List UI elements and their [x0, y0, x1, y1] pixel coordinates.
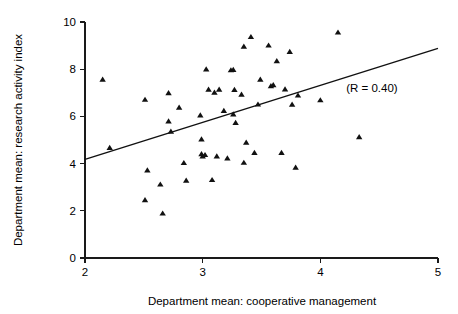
x-tick-label: 4 — [317, 266, 324, 278]
data-point-marker — [274, 58, 280, 63]
data-point-marker — [287, 49, 293, 54]
y-tick-label: 4 — [70, 158, 77, 170]
data-point-marker — [251, 150, 257, 155]
regression-line — [85, 48, 438, 159]
data-point-marker — [335, 29, 341, 34]
data-point-marker — [183, 178, 189, 183]
data-point-marker — [317, 97, 323, 102]
data-point-marker — [241, 160, 247, 165]
data-point-marker — [282, 86, 288, 91]
data-point-marker — [142, 97, 148, 102]
data-point-marker — [224, 155, 230, 160]
data-point-marker — [221, 108, 227, 113]
data-point-marker — [248, 34, 254, 39]
y-axis-title: Department mean: research activity index — [12, 34, 24, 246]
data-point-marker — [241, 44, 247, 49]
data-point-marker — [142, 197, 148, 202]
data-point-marker — [181, 160, 187, 165]
data-point-marker — [265, 42, 271, 47]
data-point-marker — [157, 181, 163, 186]
annotation-label: (R = 0.40) — [346, 82, 398, 94]
data-point-marker — [216, 87, 222, 92]
data-point-marker — [159, 210, 165, 215]
data-point-marker — [214, 153, 220, 158]
y-tick-label: 10 — [63, 16, 76, 28]
data-point-marker — [165, 118, 171, 123]
data-point-marker — [289, 102, 295, 107]
x-axis-title: Department mean: cooperative management — [148, 295, 377, 307]
y-tick-label: 0 — [70, 252, 76, 264]
y-tick-label: 6 — [70, 110, 76, 122]
data-points — [99, 29, 362, 215]
data-point-marker — [278, 150, 284, 155]
data-point-marker — [197, 112, 203, 117]
y-tick-label: 2 — [70, 205, 76, 217]
x-tick-label: 2 — [82, 266, 88, 278]
data-point-marker — [356, 134, 362, 139]
data-point-marker — [165, 90, 171, 95]
scatter-plot-figure: Department mean: research activity index… — [0, 0, 458, 314]
x-tick-label: 3 — [199, 266, 205, 278]
data-point-marker — [231, 87, 237, 92]
data-point-marker — [211, 90, 217, 95]
data-point-marker — [176, 104, 182, 109]
data-point-marker — [99, 77, 105, 82]
data-point-marker — [243, 140, 249, 145]
data-point-marker — [203, 66, 209, 71]
data-point-marker — [209, 177, 215, 182]
data-point-marker — [232, 120, 238, 125]
data-point-marker — [205, 87, 211, 92]
data-point-marker — [292, 165, 298, 170]
correlation-annotation: (R = 0.40) — [346, 82, 398, 94]
x-axis-ticks: 2345 — [82, 258, 441, 278]
data-point-marker — [107, 145, 113, 150]
data-point-marker — [198, 136, 204, 141]
data-point-marker — [144, 167, 150, 172]
y-tick-label: 8 — [70, 63, 76, 75]
data-point-marker — [257, 77, 263, 82]
x-tick-label: 5 — [435, 266, 441, 278]
data-point-marker — [238, 91, 244, 96]
regression-line-segment — [85, 48, 438, 159]
y-axis-ticks: 0246810 — [63, 16, 85, 264]
plot-canvas: Department mean: research activity index… — [0, 0, 458, 314]
